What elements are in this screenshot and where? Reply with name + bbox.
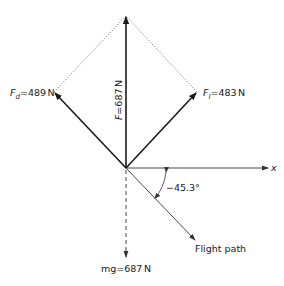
- lift-force-arrow: [126, 93, 196, 168]
- flight-path-arrow: [126, 168, 195, 240]
- resultant-force-label: F=687N: [113, 80, 124, 120]
- lift-equals: =: [210, 87, 218, 98]
- angle-label: −45.3°: [166, 182, 200, 193]
- drag-unit: N: [48, 87, 55, 98]
- weight-force-label: mg=687N: [101, 263, 151, 274]
- weight-equals: =: [116, 263, 124, 274]
- resultant-unit: N: [113, 80, 124, 87]
- weight-value: 687: [124, 263, 142, 274]
- flight-path-label: Flight path: [195, 243, 246, 254]
- lift-force-label: Fl=483N: [203, 87, 245, 101]
- force-diagram: x F=687N Fd=489N Fl=483N mg=687N Flight …: [0, 0, 284, 286]
- lift-unit: N: [238, 87, 245, 98]
- x-axis-label: x: [270, 162, 277, 173]
- resultant-equals: =: [113, 107, 124, 115]
- drag-value: 489: [28, 87, 46, 98]
- lift-value: 483: [218, 87, 236, 98]
- resultant-value: 687: [113, 89, 124, 107]
- drag-force-label: Fd=489N: [10, 87, 55, 101]
- dotted-line-right: [126, 16, 197, 92]
- angle-arc: [155, 172, 166, 198]
- svg-text:F=687N: F=687N: [113, 80, 124, 120]
- weight-symbol: mg: [101, 263, 116, 274]
- weight-unit: N: [144, 263, 151, 274]
- drag-equals: =: [20, 87, 28, 98]
